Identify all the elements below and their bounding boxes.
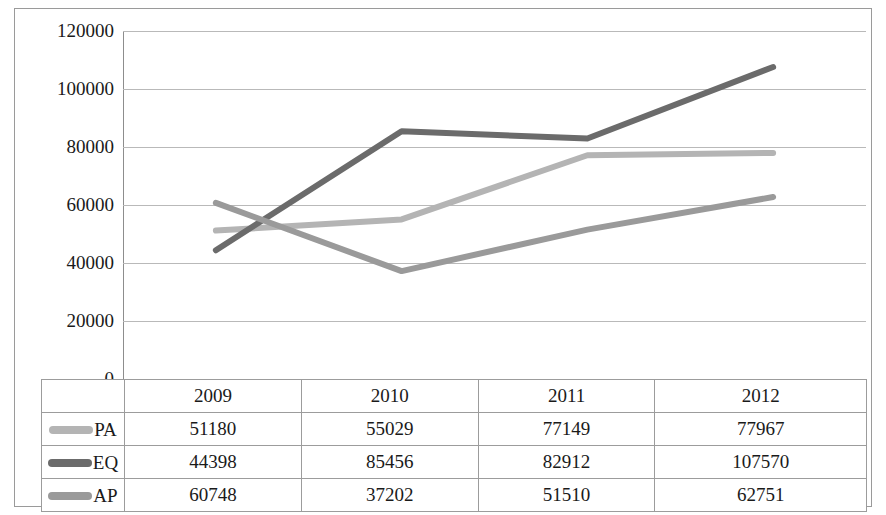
- y-axis-tick-label: 20000: [0, 311, 114, 330]
- table-cell: 107570: [655, 446, 867, 479]
- chart-plot-area: 020000400006000080000100000120000: [123, 31, 866, 379]
- table-cell: 37202: [301, 479, 478, 512]
- legend-cell-eq: EQ: [42, 446, 125, 479]
- series-lines: [123, 31, 866, 379]
- legend-cell-ap: AP: [42, 479, 125, 512]
- table-cell: 51510: [478, 479, 655, 512]
- table-cell: 44398: [125, 446, 302, 479]
- y-axis-tick-label: 100000: [0, 79, 114, 98]
- series-line-ap: [216, 197, 773, 271]
- table-cell: 62751: [655, 479, 867, 512]
- table-cell: 55029: [301, 413, 478, 446]
- y-axis-tick-label: 120000: [0, 21, 114, 40]
- legend-swatch-icon: [48, 492, 92, 500]
- table-header-row: 2009201020112012: [42, 380, 867, 413]
- chart-frame: 020000400006000080000100000120000 200920…: [14, 8, 872, 507]
- data-table: 2009201020112012PA51180550297714977967EQ…: [41, 379, 867, 512]
- table-cell: 85456: [301, 446, 478, 479]
- table-cell: 60748: [125, 479, 302, 512]
- table-row: AP60748372025151062751: [42, 479, 867, 512]
- series-label: PA: [94, 419, 117, 441]
- table-row: EQ443988545682912107570: [42, 446, 867, 479]
- series-line-pa: [216, 153, 773, 231]
- y-axis-tick-label: 80000: [0, 137, 114, 156]
- series-label: AP: [93, 485, 117, 507]
- table-cell: 77149: [478, 413, 655, 446]
- y-axis-tick-label: 40000: [0, 253, 114, 272]
- y-axis-tick-label: 60000: [0, 195, 114, 214]
- column-header-2009: 2009: [125, 380, 302, 413]
- column-header-2010: 2010: [301, 380, 478, 413]
- table-cell: 51180: [125, 413, 302, 446]
- legend-cell-pa: PA: [42, 413, 125, 446]
- table-corner-cell: [42, 380, 125, 413]
- table-cell: 82912: [478, 446, 655, 479]
- table-row: PA51180550297714977967: [42, 413, 867, 446]
- column-header-2012: 2012: [655, 380, 867, 413]
- column-header-2011: 2011: [478, 380, 655, 413]
- table-cell: 77967: [655, 413, 867, 446]
- legend-swatch-icon: [49, 426, 93, 434]
- legend-swatch-icon: [48, 459, 92, 467]
- series-label: EQ: [93, 452, 118, 474]
